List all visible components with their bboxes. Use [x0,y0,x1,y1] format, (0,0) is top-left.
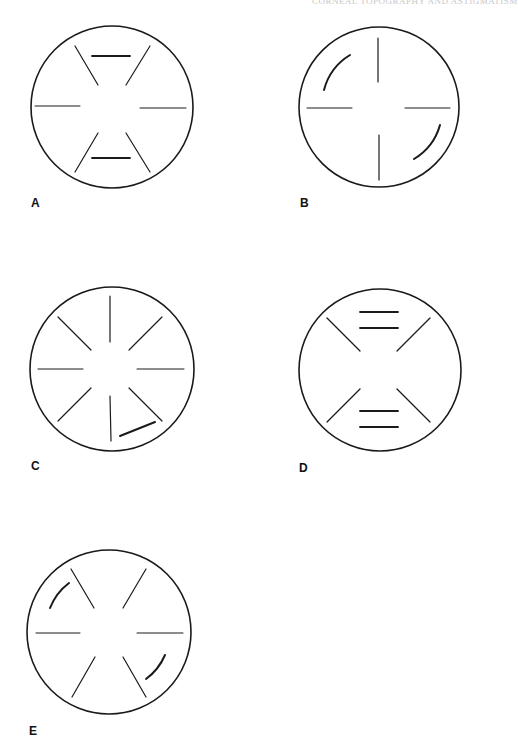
panel-label-e: E [29,724,37,738]
panel-e [27,550,191,714]
panel-label-a: A [31,196,40,210]
panel-a [31,26,193,188]
panel-b [299,27,459,187]
panel-d [299,289,461,451]
panel-label-c: C [31,459,40,473]
panel-label-d: D [299,461,308,475]
panel-c [30,287,194,451]
panel-label-b: B [300,196,309,210]
